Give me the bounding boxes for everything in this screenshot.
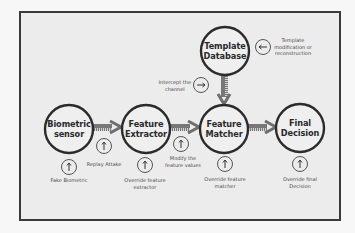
diagram-canvas: Biometric sensor Feature Extractor Featu…	[0, 0, 355, 233]
attack-label-line: extractor	[124, 184, 165, 191]
left-arrow-icon	[256, 40, 271, 55]
up-arrow-icon	[138, 158, 153, 173]
node-label-template-database: Template Database	[201, 41, 249, 61]
node-label-line: Database	[201, 51, 249, 61]
node-label-line: Template	[201, 41, 249, 51]
attack-label-line: Modify the	[165, 155, 201, 162]
up-arrow-icon	[62, 160, 77, 175]
attack-label-replay-attack: Replay Attake	[87, 161, 122, 168]
right-arrow-icon	[194, 78, 209, 93]
up-arrow-icon	[218, 157, 233, 172]
attack-label-line: Decision	[283, 183, 317, 190]
node-label-line: Extractor	[122, 129, 170, 139]
node-label-line: Matcher	[200, 129, 248, 139]
up-arrow-icon	[293, 157, 308, 172]
node-label-biometric-sensor: Biometric sensor	[45, 119, 93, 139]
attack-label-modify-feature-values: Modify the feature values	[165, 155, 201, 168]
up-arrow-icon	[174, 137, 189, 152]
attack-label-line: channel	[159, 86, 191, 93]
attack-label-line: Override feature	[204, 176, 245, 183]
attack-label-line: Override final	[283, 176, 317, 183]
up-arrow-icon	[97, 139, 112, 154]
node-label-line: Final	[276, 118, 324, 128]
node-label-feature-matcher: Feature Matcher	[200, 119, 248, 139]
attack-label-override-final-decision: Override final Decision	[283, 176, 317, 189]
node-label-final-decision: Final Decision	[276, 118, 324, 138]
diagram-graphics	[0, 0, 355, 233]
attack-label-line: Override feature	[124, 177, 165, 184]
attack-label-line: Fake Biometric	[51, 177, 88, 184]
attack-label-line: reconstruction	[274, 50, 312, 57]
attack-label-line: Replay Attake	[87, 161, 122, 168]
attack-label-override-feature-extractor: Override feature extractor	[124, 177, 165, 190]
node-label-feature-extractor: Feature Extractor	[122, 119, 170, 139]
edge-extractor-to-matcher	[170, 121, 199, 133]
edge-sensor-to-extractor	[93, 121, 121, 133]
attack-label-override-feature-matcher: Override feature matcher	[204, 176, 245, 189]
attack-label-intercept-channel: Intercept the channel	[159, 79, 191, 92]
attack-label-line: matcher	[204, 183, 245, 190]
edge-matcher-to-decision	[248, 121, 276, 133]
attack-label-line: feature values	[165, 162, 201, 169]
attack-label-fake-biometric: Fake Biometric	[51, 177, 88, 184]
attack-label-line: Intercept the	[159, 79, 191, 86]
node-label-line: Decision	[276, 128, 324, 138]
node-label-line: Feature	[200, 119, 248, 129]
edge-database-to-matcher	[218, 75, 230, 104]
node-label-line: sensor	[45, 129, 93, 139]
node-label-line: Feature	[122, 119, 170, 129]
attack-label-template-modification: Template modification or reconstruction	[274, 37, 312, 57]
node-label-line: Biometric	[45, 119, 93, 129]
